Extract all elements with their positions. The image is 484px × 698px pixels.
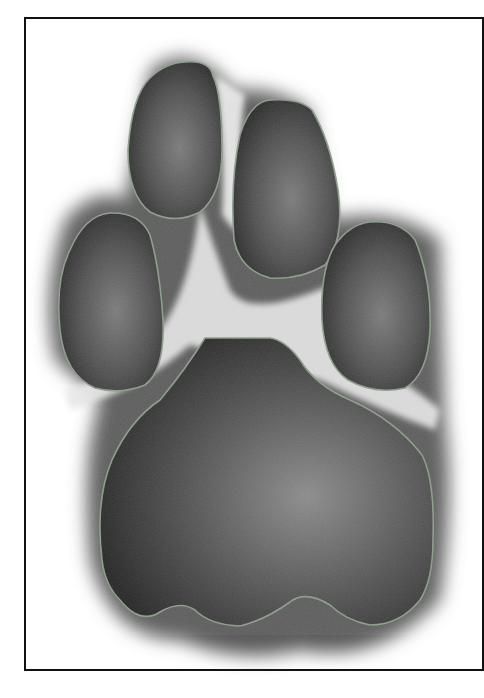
skin-texture	[50, 55, 450, 635]
